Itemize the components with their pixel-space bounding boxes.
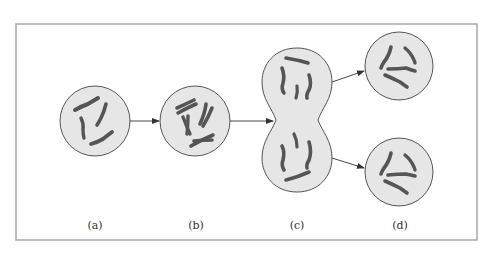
cell-division-diagram: (a) (b) (c) (d)	[0, 0, 495, 255]
cell-d-bottom	[365, 138, 433, 206]
stage-label-b: (b)	[188, 219, 204, 232]
stage-label-a: (a)	[87, 219, 102, 232]
stage-label-d: (d)	[392, 219, 408, 232]
cell-a	[60, 86, 130, 156]
stage-label-c: (c)	[290, 219, 305, 232]
cell-d-top	[365, 32, 433, 100]
cell-b	[160, 86, 230, 156]
